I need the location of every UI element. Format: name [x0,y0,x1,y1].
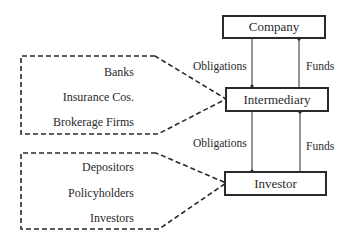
obligations-label-1: Obligations [193,59,247,73]
group-item-banks: Banks [4,65,134,79]
investor-node: Investor [224,171,327,196]
obligations-label-2: Obligations [193,136,247,150]
group-item-policyholders: Policyholders [4,186,134,200]
intermediary-label: Intermediary [243,92,310,108]
group-item-depositors: Depositors [4,160,134,174]
intermediary-node: Intermediary [225,87,329,112]
company-label: Company [249,19,300,35]
investor-label: Investor [254,176,297,192]
group-item-investors: Investors [4,211,134,225]
funds-label-2: Funds [306,139,334,153]
funds-label-1: Funds [306,59,334,73]
company-node: Company [222,15,326,39]
group-item-brokerage: Brokerage Firms [4,115,134,129]
group-item-insurance: Insurance Cos. [4,90,134,104]
